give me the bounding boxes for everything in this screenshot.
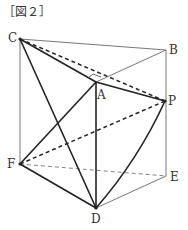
- label-E: E: [170, 170, 179, 184]
- right-angle-mark: [88, 74, 101, 78]
- edge-CA: [20, 39, 96, 82]
- label-B: B: [169, 43, 178, 57]
- vertex-P: [163, 99, 166, 102]
- label-P: P: [168, 94, 176, 108]
- prism-diagram: C B A P F E D: [0, 0, 188, 230]
- edge-FP: [20, 101, 165, 164]
- thin-edges: [20, 39, 166, 208]
- vertex-D: [94, 206, 97, 209]
- edge-AF: [20, 82, 96, 164]
- label-F: F: [7, 157, 15, 171]
- label-C: C: [8, 31, 17, 45]
- edge-AP: [96, 82, 165, 101]
- edge-DE: [96, 176, 166, 208]
- vertex-C: [18, 37, 21, 40]
- edge-AB: [96, 50, 166, 82]
- label-A: A: [96, 88, 106, 102]
- edge-FE: [20, 164, 166, 176]
- vertex-F: [18, 162, 21, 165]
- dashed-segments: [20, 39, 165, 164]
- label-D: D: [91, 212, 101, 226]
- edge-FD: [20, 164, 96, 208]
- hidden-edges: [20, 164, 166, 176]
- thick-edges: [20, 39, 165, 208]
- vertices: [18, 37, 166, 209]
